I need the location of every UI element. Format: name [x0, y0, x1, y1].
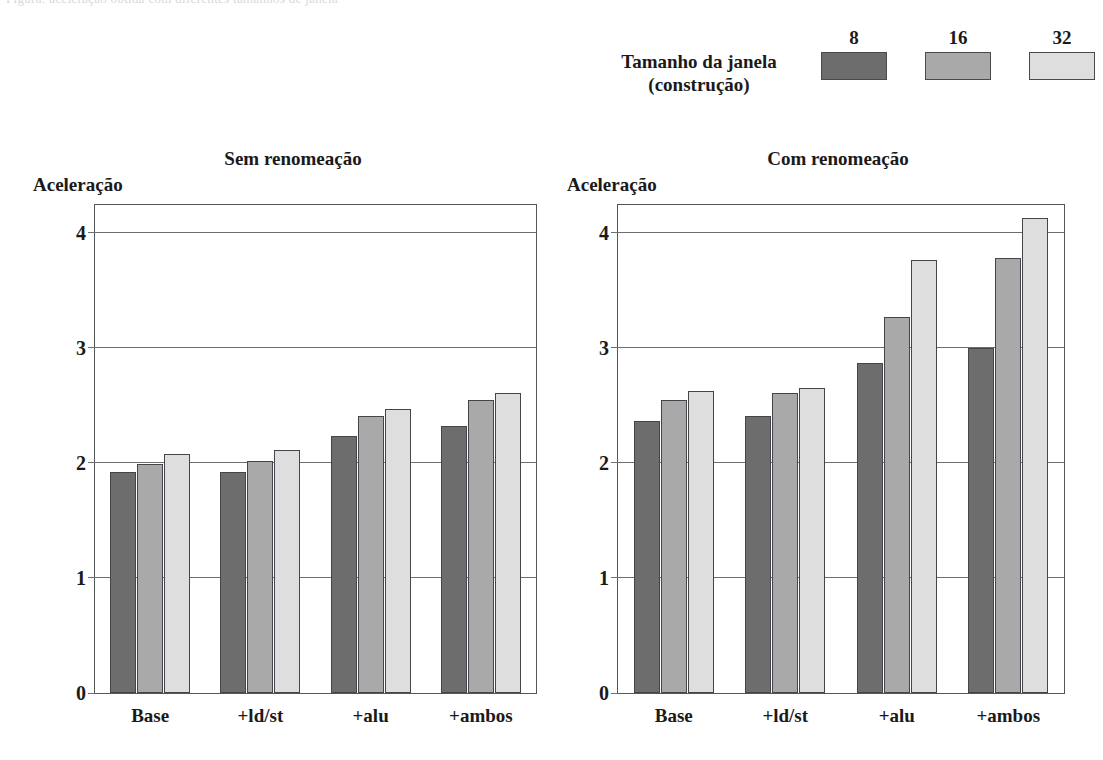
y-tick-mark-0 — [611, 693, 618, 694]
bar — [274, 450, 300, 693]
y-tick-label-3: 3 — [599, 338, 609, 358]
plot-area-left: 01234Base+ld/st+alu+ambos — [94, 204, 537, 694]
y-tick-mark-3 — [88, 347, 95, 348]
y-tick-label-4: 4 — [76, 223, 86, 243]
y-tick-mark-4 — [88, 232, 95, 233]
x-tick-label: +ambos — [976, 705, 1040, 727]
bar — [331, 436, 357, 693]
y-tick-mark-2 — [611, 462, 618, 463]
bar — [1022, 218, 1048, 693]
y-tick-mark-1 — [88, 577, 95, 578]
bar — [385, 409, 411, 693]
bar — [799, 388, 825, 693]
x-tick-label: +ld/st — [762, 705, 808, 727]
chart-title-left: Sem renomeação — [78, 148, 508, 170]
bar — [661, 400, 687, 693]
bar — [634, 421, 660, 693]
bar-group-base: Base — [618, 205, 730, 693]
bar-group--ld-st: +ld/st — [205, 205, 315, 693]
bar — [968, 348, 994, 693]
x-tick-label: +ambos — [449, 705, 513, 727]
y-tick-mark-0 — [88, 693, 95, 694]
y-tick-label-2: 2 — [599, 453, 609, 473]
bar — [247, 461, 273, 693]
bar-group--ld-st: +ld/st — [730, 205, 842, 693]
x-tick-label: Base — [131, 705, 169, 727]
bar — [137, 464, 163, 693]
y-tick-mark-1 — [611, 577, 618, 578]
bar — [220, 472, 246, 693]
y-tick-label-0: 0 — [76, 683, 86, 703]
x-tick-label: +alu — [879, 705, 915, 727]
bar — [884, 317, 910, 693]
y-tick-label-1: 1 — [599, 568, 609, 588]
chart-panel-sem-renomeacao: Sem renomeação Aceleração 01234Base+ld/s… — [0, 0, 540, 760]
bar — [468, 400, 494, 693]
bar — [911, 260, 937, 693]
x-tick-label: +alu — [353, 705, 389, 727]
bar — [995, 258, 1021, 693]
plot-area-right: 01234Base+ld/st+alu+ambos — [617, 204, 1065, 694]
bar-group-base: Base — [95, 205, 205, 693]
chart-panel-com-renomeacao: Com renomeação Aceleração 01234Base+ld/s… — [523, 0, 1063, 760]
bar — [358, 416, 384, 693]
bar-group--alu: +alu — [316, 205, 426, 693]
bar — [857, 363, 883, 693]
y-tick-label-4: 4 — [599, 223, 609, 243]
bar — [688, 391, 714, 693]
bar-group--ambos: +ambos — [953, 205, 1065, 693]
bar — [441, 426, 467, 693]
y-tick-mark-3 — [611, 347, 618, 348]
y-axis-label-right: Aceleração — [567, 174, 657, 196]
x-tick-label: +ld/st — [238, 705, 284, 727]
y-axis-label-left: Aceleração — [33, 174, 123, 196]
y-tick-mark-2 — [88, 462, 95, 463]
bar — [772, 393, 798, 693]
bar-group--ambos: +ambos — [426, 205, 536, 693]
bar — [495, 393, 521, 693]
y-tick-mark-4 — [611, 232, 618, 233]
y-tick-label-0: 0 — [599, 683, 609, 703]
bar-group--alu: +alu — [841, 205, 953, 693]
chart-title-right: Com renomeação — [623, 148, 1053, 170]
bar — [110, 472, 136, 693]
bar — [164, 454, 190, 693]
y-tick-label-3: 3 — [76, 338, 86, 358]
x-tick-label: Base — [655, 705, 693, 727]
y-tick-label-1: 1 — [76, 568, 86, 588]
bar — [745, 416, 771, 693]
y-tick-label-2: 2 — [76, 453, 86, 473]
